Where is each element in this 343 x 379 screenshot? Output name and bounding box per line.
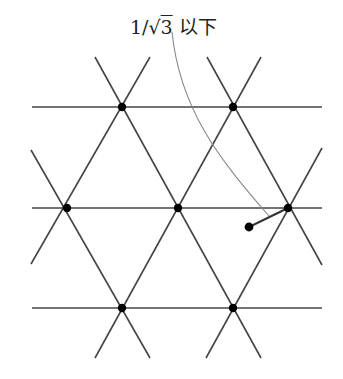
lattice-node xyxy=(118,103,126,111)
label-suffix: 以下 xyxy=(173,16,217,38)
leader-curve xyxy=(172,32,269,216)
lattice-node xyxy=(174,204,182,212)
triangular-lattice-diagram xyxy=(0,0,343,379)
diagonal-line xyxy=(31,57,150,264)
radical-sign: √ xyxy=(149,16,161,38)
lattice-node xyxy=(284,204,292,212)
diagonal-line xyxy=(206,148,322,358)
lattice-node xyxy=(229,103,237,111)
lattice-node xyxy=(118,304,126,312)
arbitrary-point xyxy=(245,223,254,232)
diagonal-line xyxy=(31,150,150,358)
lattice-node xyxy=(63,204,71,212)
distance-segment xyxy=(249,208,288,227)
lattice-node xyxy=(229,304,237,312)
label-prefix: 1/ xyxy=(130,16,149,38)
radicand: 3 xyxy=(161,16,173,38)
distance-label: 1/√3 以下 xyxy=(130,12,217,39)
